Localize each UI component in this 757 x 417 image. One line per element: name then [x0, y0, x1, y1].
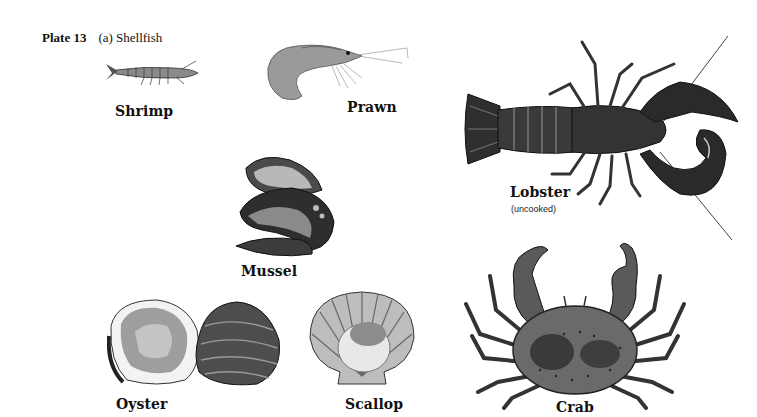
crab-label: Crab — [556, 399, 594, 415]
plate-header: Plate 13 (a) Shellfish — [42, 30, 162, 46]
shrimp-illustration — [104, 58, 202, 88]
shrimp-label: Shrimp — [115, 103, 173, 119]
lobster-label: Lobster — [510, 184, 570, 200]
mussel-label: Mussel — [241, 263, 297, 279]
lobster-illustration — [460, 34, 740, 244]
oyster-label: Oyster — [116, 396, 168, 412]
crab-illustration — [460, 240, 690, 410]
plate-number: Plate 13 — [42, 30, 86, 45]
plate-subtitle: (a) Shellfish — [98, 30, 162, 45]
lobster-note: (uncooked) — [511, 204, 556, 214]
oyster-illustration — [107, 296, 285, 388]
scallop-illustration — [306, 288, 418, 388]
prawn-illustration — [262, 38, 412, 106]
mussel-illustration — [232, 150, 340, 260]
scallop-label: Scallop — [345, 396, 403, 412]
prawn-label: Prawn — [347, 99, 397, 115]
